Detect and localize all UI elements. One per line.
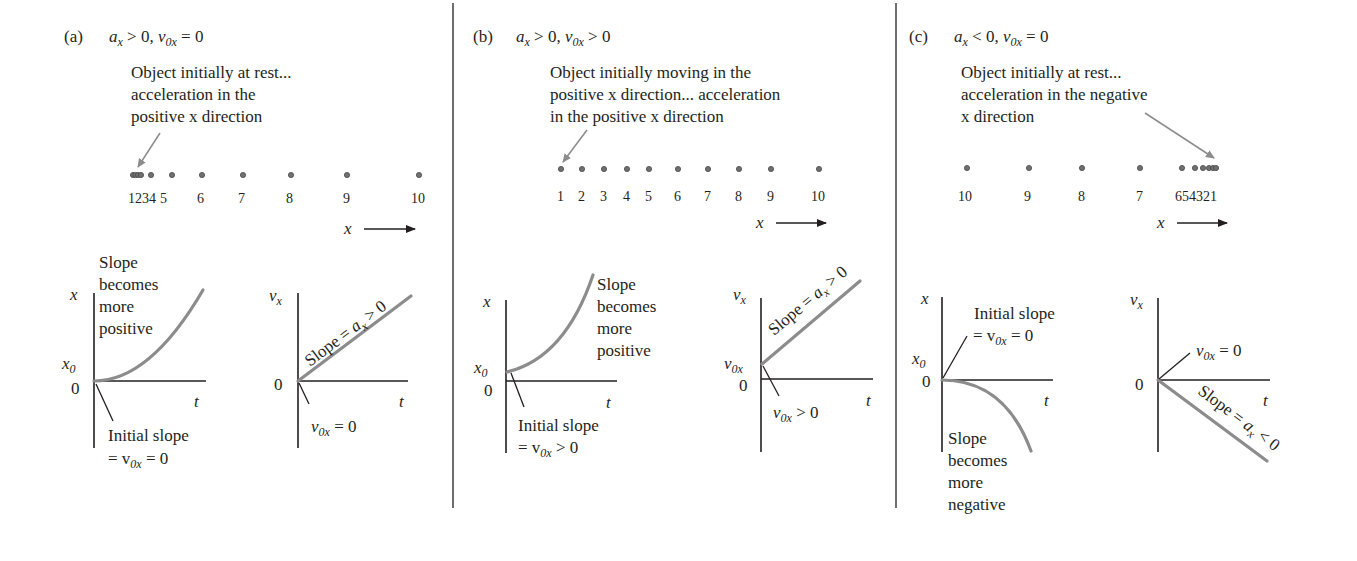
svg-text:vx: vx	[1130, 290, 1144, 312]
svg-text:10: 10	[811, 189, 825, 204]
svg-text:Object initially moving in the: Object initially moving in the	[550, 63, 751, 82]
panel-a-curve-annotation: Slope becomes more positive	[99, 253, 158, 338]
panel-b-x-direction-label: x	[755, 213, 764, 232]
svg-text:becomes: becomes	[597, 297, 656, 316]
svg-text:= v0x > 0: = v0x > 0	[518, 438, 578, 460]
svg-text:1: 1	[128, 191, 135, 206]
svg-text:Initial slope: Initial slope	[974, 304, 1055, 323]
svg-text:7: 7	[238, 191, 245, 206]
panel-c-description: Object initially at rest... acceleration…	[961, 63, 1147, 126]
svg-text:8: 8	[286, 191, 293, 206]
svg-text:= v0x = 0: = v0x = 0	[973, 326, 1033, 348]
svg-text:4: 4	[623, 189, 630, 204]
panel-a-description-pointer	[138, 133, 160, 167]
panel-c-x-direction-label: x	[1156, 213, 1165, 232]
panel-c: (c) ax < 0, v0x = 0 Object initially at …	[909, 27, 1284, 514]
svg-text:Slope = ax > 0: Slope = ax > 0	[764, 262, 853, 341]
svg-text:6: 6	[674, 189, 681, 204]
svg-text:0: 0	[484, 381, 493, 400]
svg-text:x: x	[920, 289, 929, 308]
svg-text:acceleration in the: acceleration in the	[131, 85, 256, 104]
svg-text:v0x = 0: v0x = 0	[311, 417, 356, 439]
panel-b-curve-annotation: Slope becomes more positive	[597, 275, 656, 360]
panel-b-motion-labels: 1 2 3 4 5 6 7 8 9 10	[557, 189, 825, 204]
svg-text:3: 3	[142, 191, 149, 206]
svg-text:more: more	[99, 297, 134, 316]
svg-text:t: t	[1044, 391, 1050, 410]
svg-text:becomes: becomes	[948, 451, 1007, 470]
svg-text:more: more	[948, 473, 983, 492]
svg-text:x0: x0	[473, 358, 488, 380]
svg-text:5: 5	[645, 189, 652, 204]
svg-text:t: t	[606, 393, 612, 412]
panel-b-position-curve	[507, 275, 593, 372]
svg-text:t: t	[399, 392, 405, 411]
svg-text:6: 6	[197, 191, 204, 206]
svg-text:8: 8	[1078, 189, 1085, 204]
panel-b-condition: ax > 0, v0x > 0	[516, 27, 610, 49]
svg-text:vx: vx	[269, 286, 283, 308]
panel-c-condition: ax < 0, v0x = 0	[954, 27, 1048, 49]
svg-text:0: 0	[1135, 375, 1144, 394]
panel-a-description: Object initially at rest... acceleration…	[131, 63, 292, 126]
panel-c-motion-labels: 10 9 8 7 654321	[958, 189, 1217, 204]
svg-text:in the positive x direction: in the positive x direction	[550, 107, 724, 126]
svg-text:negative: negative	[948, 495, 1006, 514]
svg-text:positive x direction: positive x direction	[131, 107, 263, 126]
panel-b-motion-dots	[558, 166, 821, 171]
svg-text:v0x = 0: v0x = 0	[1196, 341, 1241, 363]
svg-text:Slope = ax < 0: Slope = ax < 0	[1193, 381, 1284, 457]
panel-c-description-pointer	[1145, 113, 1214, 158]
panel-c-xt-graph: x x0 0 t Initial slope = v0x = 0 Slope b…	[911, 289, 1055, 514]
panel-a-label: (a)	[64, 27, 83, 46]
panel-c-label: (c)	[909, 27, 928, 46]
svg-text:7: 7	[704, 189, 711, 204]
panel-a: (a) ax > 0, v0x = 0 Object initially at …	[61, 27, 425, 471]
svg-text:2: 2	[135, 191, 142, 206]
panel-a-x-direction-label: x	[343, 219, 352, 238]
panel-b-description-pointer	[563, 130, 587, 162]
svg-text:2: 2	[578, 189, 585, 204]
svg-text:654321: 654321	[1175, 189, 1217, 204]
svg-text:0: 0	[71, 379, 80, 398]
panel-a-motion-dots	[130, 172, 421, 177]
panel-b: (b) ax > 0, v0x > 0 Object initially mov…	[473, 27, 873, 460]
svg-text:acceleration in the negative: acceleration in the negative	[961, 85, 1147, 104]
svg-text:t: t	[866, 391, 872, 410]
panel-c-motion-dots	[964, 165, 1218, 170]
svg-text:Initial slope: Initial slope	[108, 426, 189, 445]
svg-text:0: 0	[739, 376, 748, 395]
svg-text:positive: positive	[597, 341, 651, 360]
panel-b-label: (b)	[473, 27, 493, 46]
svg-text:7: 7	[1136, 189, 1143, 204]
panel-b-description: Object initially moving in the positive …	[550, 63, 781, 126]
svg-text:x0: x0	[911, 349, 926, 371]
svg-text:0: 0	[274, 375, 283, 394]
svg-text:becomes: becomes	[99, 275, 158, 294]
svg-text:9: 9	[767, 189, 774, 204]
svg-text:positive: positive	[99, 319, 153, 338]
panel-a-xt-graph: x x0 0 t Slope becomes more positive Ini…	[61, 253, 206, 471]
svg-text:x: x	[482, 292, 491, 311]
svg-text:9: 9	[343, 191, 350, 206]
svg-text:more: more	[597, 319, 632, 338]
svg-text:v0x: v0x	[724, 354, 744, 376]
svg-text:Object initially at rest...: Object initially at rest...	[961, 63, 1122, 82]
kinematics-figure: (a) ax > 0, v0x = 0 Object initially at …	[0, 0, 1357, 561]
panel-c-vt-graph: vx 0 t v0x = 0 Slope = ax < 0	[1130, 290, 1284, 461]
svg-text:10: 10	[958, 189, 972, 204]
svg-text:1: 1	[557, 189, 564, 204]
panel-a-condition: ax > 0, v0x = 0	[109, 27, 203, 49]
panel-a-motion-labels: 1 2 3 4 5 6 7 8 9 10	[128, 191, 425, 206]
svg-text:Object initially at rest...: Object initially at rest...	[131, 63, 292, 82]
svg-text:0: 0	[922, 372, 931, 391]
panel-c-curve-annotation: Slope becomes more negative	[948, 429, 1007, 514]
panel-a-vt-graph: vx 0 t Slope = ax > 0 v0x = 0	[269, 286, 411, 448]
svg-text:x: x	[69, 285, 78, 304]
svg-text:10: 10	[411, 191, 425, 206]
svg-text:t: t	[194, 392, 200, 411]
svg-text:3: 3	[600, 189, 607, 204]
svg-text:Slope = ax > 0: Slope = ax > 0	[301, 297, 392, 373]
svg-text:8: 8	[735, 189, 742, 204]
svg-text:x direction: x direction	[961, 107, 1035, 126]
